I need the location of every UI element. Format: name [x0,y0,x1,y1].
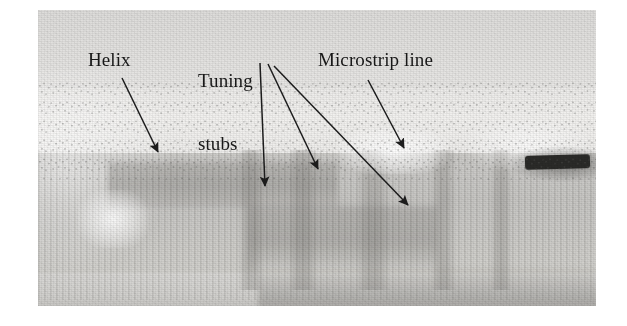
label-microstrip-line: Microstrip line [318,49,433,70]
label-tuning-stubs: Tuning stubs [198,28,253,196]
label-tuning-line-2: stubs [198,133,253,154]
label-helix: Helix [88,49,131,70]
label-tuning-line-1: Tuning [198,70,253,91]
bleed-through-text [175,308,475,322]
figure-root: Helix Tuning stubs Microstrip line [0,0,627,326]
